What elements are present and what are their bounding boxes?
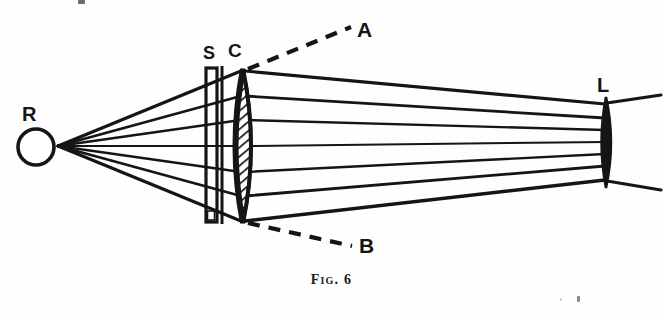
ray-3 — [58, 120, 241, 146]
projection-lens-body — [602, 97, 612, 188]
exit-line-upper — [607, 95, 661, 103]
scan-speck-top — [78, 0, 85, 4]
label-condenser-c: C — [228, 41, 242, 60]
optical-ray-diagram — [0, 0, 663, 316]
label-screen-s: S — [203, 44, 215, 62]
exit-line-lower — [607, 181, 661, 190]
ray-5 — [58, 146, 241, 172]
scan-speck-bottom — [577, 296, 580, 302]
screen-plate-foot — [208, 211, 215, 220]
label-source-r: R — [22, 104, 36, 124]
figure-caption: Fig. 6 — [0, 272, 663, 288]
ray-1 — [58, 71, 241, 146]
ray-out-7 — [245, 180, 605, 221]
ray-2 — [58, 96, 241, 146]
source-circle-R — [18, 129, 54, 165]
label-lens-l: L — [597, 75, 609, 95]
condenser-lens-C — [235, 69, 251, 223]
dashed-line-to-B — [248, 223, 352, 246]
ray-out-3 — [245, 120, 605, 130]
ray-out-4 — [245, 142, 605, 146]
exit-lines — [607, 95, 661, 190]
scan-speck-mid — [560, 298, 562, 301]
figure-container: R S C A B L Fig. 6 — [0, 0, 663, 316]
ray-6 — [58, 146, 241, 196]
label-lower-ray-b: B — [359, 235, 374, 256]
source-circle-outline — [18, 129, 54, 165]
projection-lens-L — [602, 97, 612, 188]
ray-7 — [58, 146, 241, 221]
dashed-line-to-A — [248, 27, 351, 69]
ray-fan-source-to-condenser — [58, 71, 241, 221]
label-upper-ray-a: A — [357, 19, 372, 40]
ray-fan-condenser-to-lens — [245, 71, 605, 221]
